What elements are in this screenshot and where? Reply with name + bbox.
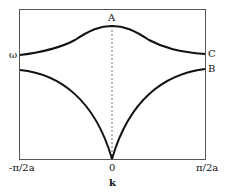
x-axis-label: k: [109, 178, 116, 188]
acoustic-branch-right: [112, 69, 205, 159]
acoustic-branch-left: [20, 70, 112, 159]
x-tick-right: π/2a: [196, 163, 218, 173]
point-c-label: C: [208, 49, 216, 59]
x-tick-zero: 0: [109, 163, 115, 173]
plot-frame: [20, 10, 206, 160]
point-b-label: B: [208, 64, 215, 74]
optical-branch-curve: [20, 26, 205, 55]
y-axis-label: ω: [9, 50, 17, 60]
x-tick-left: -π/2a: [9, 163, 35, 173]
point-a-label: A: [108, 13, 115, 23]
